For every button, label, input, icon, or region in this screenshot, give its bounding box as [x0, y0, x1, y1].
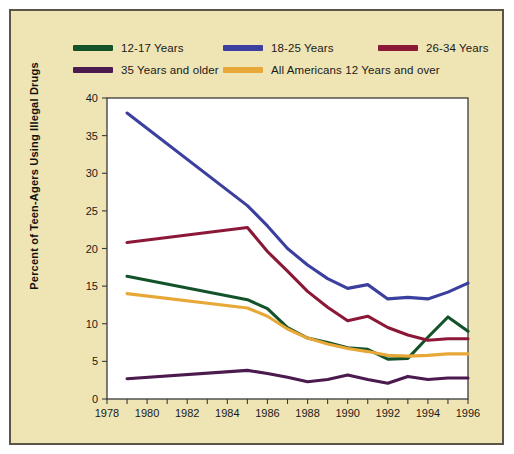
x-tick-label: 1978: [95, 407, 119, 419]
y-tick-label: 25: [86, 205, 98, 217]
y-tick-label: 20: [86, 243, 98, 255]
x-tick-label: 1992: [376, 407, 400, 419]
x-tick-label: 1988: [295, 407, 319, 419]
plot-area: Percent of Teen-Agers Using Illegal Drug…: [11, 11, 506, 447]
y-tick-label: 40: [86, 92, 98, 104]
y-tick-label: 35: [86, 130, 98, 142]
x-tick-label: 1990: [335, 407, 359, 419]
y-tick-label: 0: [92, 393, 98, 405]
y-tick-label: 30: [86, 167, 98, 179]
y-tick-label: 5: [92, 355, 98, 367]
x-tick-label: 1980: [135, 407, 159, 419]
y-tick-label: 10: [86, 318, 98, 330]
x-tick-label: 1996: [456, 407, 480, 419]
chart-figure: 12-17 Years 18-25 Years 26-34 Years 35 Y…: [9, 9, 504, 445]
x-axis-ticks: 1978198019821984198619881990199219941996: [95, 399, 480, 419]
y-axis-ticks: 0510152025303540: [86, 92, 107, 405]
x-tick-label: 1986: [255, 407, 279, 419]
x-tick-label: 1984: [215, 407, 239, 419]
chart-svg: 0510152025303540 19781980198219841986198…: [11, 11, 506, 447]
x-tick-label: 1994: [416, 407, 440, 419]
y-tick-label: 15: [86, 280, 98, 292]
x-tick-label: 1982: [175, 407, 199, 419]
